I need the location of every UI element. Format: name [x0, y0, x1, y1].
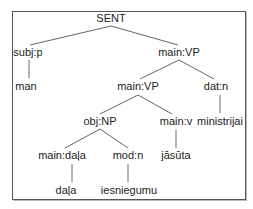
tree-edge — [100, 95, 138, 114]
tree-edge — [138, 95, 172, 114]
tree-node-label: main:VP — [117, 80, 159, 92]
tree-node-label: man — [15, 80, 36, 92]
tree-node-label: mod:n — [113, 149, 144, 161]
tree-edge — [111, 26, 178, 45]
tree-node-label: obj:NP — [83, 115, 116, 127]
tree-edge — [100, 129, 128, 148]
tree-node-label: iesniegumu — [101, 184, 157, 196]
tree-node-label: main:daļa — [38, 149, 87, 161]
tree-node-label: dat:n — [204, 80, 228, 92]
parse-tree: SENTsubj:pmanmain:VPmain:VPdat:nobj:NPma… — [0, 0, 253, 209]
tree-edge — [30, 26, 111, 45]
tree-node-label: ministrijai — [197, 115, 243, 127]
tree-node-label: main:VP — [158, 46, 200, 58]
tree-edge — [140, 60, 179, 79]
tree-node-label: subj:p — [13, 46, 42, 58]
tree-edge — [65, 129, 100, 148]
tree-node-label: daļa — [56, 184, 78, 196]
tree-edge — [179, 60, 214, 79]
tree-node-label: SENT — [96, 12, 126, 24]
tree-node-label: main:v — [160, 115, 193, 127]
tree-node-label: jāsūta — [160, 149, 191, 161]
